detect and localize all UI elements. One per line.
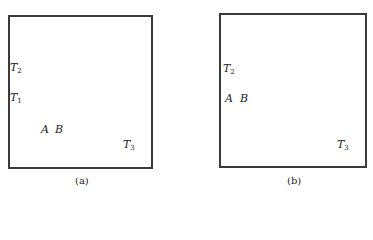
label-subscript: 3: [130, 144, 134, 152]
panel-a-label-t2: T2: [10, 62, 22, 75]
label-subscript: 2: [230, 68, 234, 76]
panel-b-label-t2: T2: [223, 63, 235, 76]
label-subscript: 1: [17, 97, 21, 105]
label-text: B: [55, 123, 63, 136]
label-text: A: [41, 123, 49, 136]
panel-b-label-b: B: [240, 93, 248, 104]
panel-a-label-t3: T3: [123, 139, 135, 152]
label-text: B: [240, 92, 248, 105]
panel-a-caption: (a): [75, 176, 89, 186]
panel-b-label-a: A: [225, 93, 233, 104]
panel-b-label-t3: T3: [337, 139, 349, 152]
panel-a-label-b: B: [55, 124, 63, 135]
label-text: A: [225, 92, 233, 105]
label-subscript: 2: [17, 67, 21, 75]
label-subscript: 3: [344, 144, 348, 152]
panel-a-label-t1: T1: [10, 92, 22, 105]
panel-b-caption: (b): [287, 176, 301, 186]
panel-a-label-a: A: [41, 124, 49, 135]
